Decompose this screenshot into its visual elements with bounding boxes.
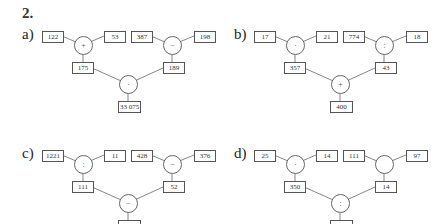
operator-circle [375,155,394,174]
result-box: 33 075 [118,101,141,113]
operator-circle: − [163,155,182,174]
operator-circle: − [119,194,138,213]
input-box: 428 [131,150,153,162]
input-box: 14 [316,150,338,162]
intermediate-box: 43 [375,62,397,74]
panel-a: 122 + 53 387 − 198 175 189 · 33 075 [0,0,215,112]
input-box: 774 [343,31,365,43]
input-box: 18 [406,31,428,43]
operator-circle: · [286,155,305,174]
panel-d-connectors [212,119,427,224]
panel-c: 1221 : 11 428 − 376 111 52 − 59 [0,119,215,224]
input-box: 387 [131,31,153,43]
input-box: 25 [254,150,276,162]
input-box: 17 [254,31,276,43]
input-box: 53 [104,31,126,43]
operator-circle: · [119,75,138,94]
panel-d: 25 · 14 111 97 350 14 : 25 [212,119,427,224]
result-box: 25 [330,220,353,224]
operator-circle: : [331,194,350,213]
intermediate-box: 189 [163,62,185,74]
operator-circle: : [74,155,93,174]
intermediate-box: 52 [163,181,185,193]
panel-b: 17 · 21 774 : 18 357 43 + 400 [212,0,427,112]
result-box: 400 [330,101,353,113]
operator-circle: + [74,36,93,55]
operator-circle: + [331,75,350,94]
intermediate-box: 357 [284,62,306,74]
operator-circle: : [375,36,394,55]
panel-c-connectors [0,119,215,224]
operator-circle: · [286,36,305,55]
panel-a-connectors [0,0,215,112]
intermediate-box: 350 [284,181,306,193]
input-box: 21 [316,31,338,43]
operator-circle: − [163,36,182,55]
intermediate-box: 111 [72,181,94,193]
intermediate-box: 14 [375,181,397,193]
panel-b-connectors [212,0,427,112]
result-box: 59 [118,220,141,224]
input-box: 1221 [42,150,64,162]
input-box: 122 [42,31,64,43]
input-box: 97 [406,150,428,162]
input-box: 11 [104,150,126,162]
input-box: 111 [343,150,365,162]
intermediate-box: 175 [72,62,94,74]
